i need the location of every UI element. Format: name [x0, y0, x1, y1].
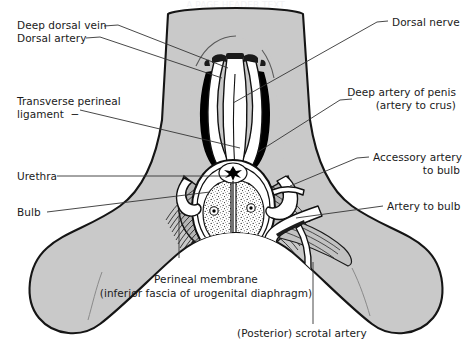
perineum-illustration — [0, 0, 471, 356]
label-deep-artery-of-penis-line1: Deep artery of penis — [250, 86, 456, 100]
perineal-body — [202, 248, 268, 268]
label-posterior-scrotal-artery: (Posterior) scrotal artery — [237, 327, 367, 341]
label-perineal-membrane-line1: Perineal membrane — [91, 273, 321, 287]
label-accessory-artery-to-bulb-line1: Accessory artery — [373, 151, 462, 165]
label-dorsal-artery: Dorsal artery — [17, 32, 87, 46]
label-transverse-perineal-ligament-line2: ligament − — [17, 108, 79, 122]
bulb-cross-section — [192, 160, 275, 254]
label-deep-artery-of-penis-line2: (artery to crus) — [250, 99, 456, 113]
label-dorsal-nerve: Dorsal nerve — [392, 16, 460, 30]
label-transverse-perineal-ligament-line1: Transverse perineal — [17, 95, 121, 109]
label-artery-to-bulb: Artery to bulb — [387, 200, 460, 214]
label-deep-dorsal-vein: Deep dorsal vein — [17, 19, 107, 33]
label-accessory-artery-to-bulb-line2: to bulb — [280, 164, 460, 178]
label-urethra: Urethra — [17, 170, 57, 184]
label-perineal-membrane-line2: (inferior fascia of urogenital diaphragm… — [66, 287, 346, 301]
label-bulb: Bulb — [17, 206, 41, 220]
anatomical-figure: A PAGE HEADER TEXT — [0, 0, 471, 356]
